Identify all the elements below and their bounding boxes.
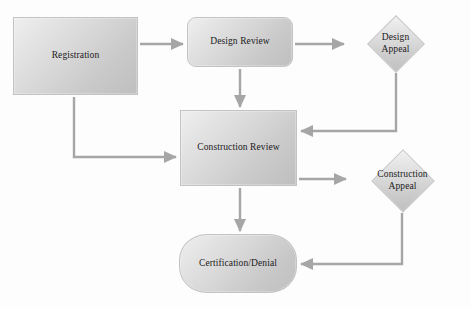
node-design-appeal[interactable]: Design Appeal <box>347 16 444 71</box>
flowchart-canvas: Registration Design Review Design Appeal… <box>0 0 471 309</box>
node-design-review-label: Design Review <box>206 36 274 48</box>
node-certification-denial[interactable]: Certification/Denial <box>179 234 297 293</box>
node-certification-denial-label: Certification/Denial <box>195 258 281 270</box>
edge-registration-to-construction-review <box>74 97 176 157</box>
node-construction-appeal-label: Construction Appeal <box>373 169 431 193</box>
node-construction-review[interactable]: Construction Review <box>180 110 297 186</box>
edge-construction-appeal-to-certification-denial <box>301 213 402 264</box>
node-registration-label: Registration <box>48 50 104 62</box>
node-design-review[interactable]: Design Review <box>187 17 293 67</box>
node-construction-review-label: Construction Review <box>193 142 283 154</box>
edge-design-appeal-to-construction-review <box>301 73 396 131</box>
node-construction-appeal[interactable]: Construction Appeal <box>349 150 456 211</box>
node-registration[interactable]: Registration <box>13 17 138 95</box>
node-design-appeal-label: Design Appeal <box>377 32 413 56</box>
